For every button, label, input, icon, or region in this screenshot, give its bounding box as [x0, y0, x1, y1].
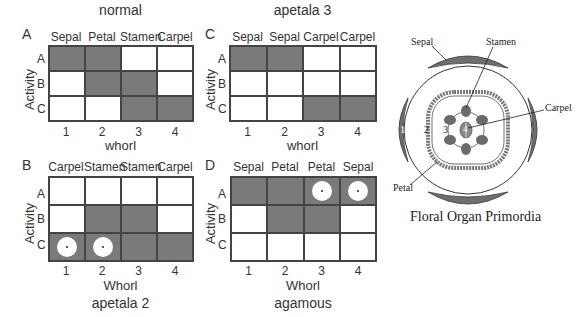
whorl-number-3: 3: [443, 124, 448, 135]
y-axis-label: Activity: [203, 199, 218, 249]
x-tick: 4: [340, 264, 376, 278]
activity-grid: [230, 176, 377, 262]
whorl-number-1: 1: [400, 124, 405, 135]
whorl-number-4: 4: [463, 124, 468, 134]
column-label: Petal: [267, 160, 303, 174]
grid-cell: [304, 233, 340, 261]
x-tick: 2: [267, 264, 303, 278]
x-tick: 3: [303, 264, 340, 278]
x-axis-label: Whorl: [230, 278, 376, 293]
grid-cell: [304, 177, 340, 205]
label-carpel: Carpel: [545, 102, 572, 113]
label-stamen: Stamen: [486, 36, 516, 47]
grid-cell: [340, 177, 376, 205]
column-label: Sepal: [230, 160, 267, 174]
grid-cell: [231, 205, 267, 233]
floral-organ-diagram: [390, 0, 588, 317]
asterisk-marker-icon: [312, 181, 332, 201]
asterisk-marker-icon: [348, 181, 368, 201]
column-label: Petal: [303, 160, 340, 174]
grid-cell: [267, 205, 303, 233]
floral-diagram: Sepal Stamen Carpel Petal 1 2 3 4 Floral…: [390, 0, 588, 317]
label-sepal: Sepal: [411, 36, 433, 47]
x-tick: 1: [230, 264, 267, 278]
grid-cell: [267, 233, 303, 261]
row-label: C: [218, 238, 227, 252]
panel-title: agamous: [230, 295, 376, 311]
panel-agamous: D Sepal Petal Petal Sepal Activity A B C…: [0, 0, 390, 317]
grid-cell: [340, 205, 376, 233]
grid-cell: [231, 177, 267, 205]
diagram-caption: Floral Organ Primordia: [410, 209, 541, 225]
grid-cell: [231, 233, 267, 261]
grid-cell: [267, 177, 303, 205]
whorl-number-2: 2: [424, 124, 429, 135]
row-label: B: [218, 212, 226, 226]
grid-cell: [304, 205, 340, 233]
panel-letter: D: [205, 157, 215, 173]
row-label: A: [218, 187, 226, 201]
label-petal: Petal: [393, 182, 413, 193]
column-label: Sepal: [340, 160, 376, 174]
grid-cell: [340, 233, 376, 261]
